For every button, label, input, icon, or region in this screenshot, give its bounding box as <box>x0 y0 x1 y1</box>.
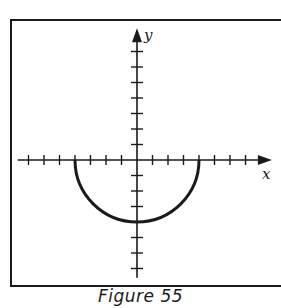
axes <box>18 28 272 278</box>
y-axis-arrow-icon <box>132 28 142 42</box>
x-axis-arrow-icon <box>258 155 272 165</box>
figure-diagram: x y <box>0 0 281 308</box>
figure-frame <box>11 20 281 286</box>
x-axis-label: x <box>262 165 271 183</box>
figure-caption: Figure 55 <box>0 286 281 306</box>
y-axis-label: y <box>143 26 153 44</box>
